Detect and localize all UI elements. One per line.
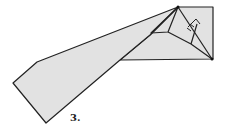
apex-point — [177, 6, 180, 9]
long-strip — [13, 7, 178, 123]
corner-point — [211, 58, 214, 61]
step-label: 3. — [70, 112, 80, 123]
fold-diagram — [0, 0, 227, 132]
